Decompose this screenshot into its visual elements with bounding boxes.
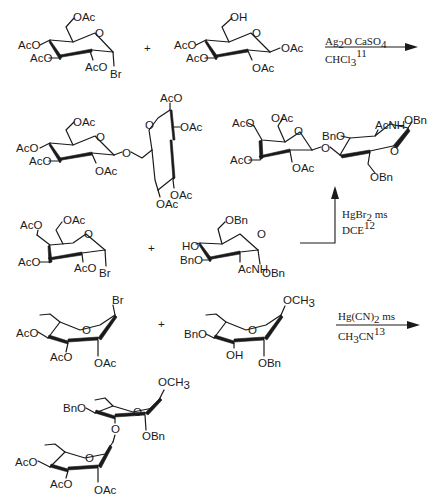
arrow-head-icon	[331, 186, 339, 199]
label-och3: OCH3	[158, 376, 190, 391]
label-ring-o: O	[248, 324, 257, 336]
label-aco-c2: AcO	[74, 262, 96, 274]
label-glycosidic-o: O	[122, 147, 131, 159]
conditions-reaction-2: HgBr2 ms DCE12	[300, 186, 388, 243]
label-ring-o: O	[95, 27, 104, 39]
label-aco-c3: AcO	[30, 52, 52, 64]
label-oac-c6: OAc	[271, 112, 294, 124]
label-linking-o: O	[111, 423, 120, 435]
label-obn-c1: OBn	[404, 114, 427, 126]
label-br: Br	[112, 294, 124, 306]
arrow-head-icon	[405, 43, 418, 51]
label-obn-c6: OBn	[370, 171, 393, 183]
product-rha-rha-disaccharide: O OCH3 BnO OBn O O AcO AcO OAc	[15, 376, 190, 496]
label-ring-o-lower: O	[85, 452, 94, 464]
label-oac-c2: OAc	[94, 357, 117, 369]
label-aco-c3: AcO	[50, 478, 72, 490]
label-aco-c4: AcO	[232, 117, 254, 129]
label-oac-c6: OAc	[73, 11, 96, 23]
glcnac-acceptor-4oh: O OBn HO BnO AcNH OBn	[180, 214, 285, 279]
rhamnosyl-bromide-donor: O Br AcO AcO OAc	[16, 294, 124, 369]
label-aco-c3: AcO	[50, 351, 72, 363]
label-oac-c6: OAc	[73, 116, 96, 128]
conditions-reaction-1: Ag2O CaSO4 CHCl311	[325, 35, 418, 68]
glucosyl-bromide-donor: OAc O AcO AcO AcO Br	[18, 11, 122, 80]
label-ring-o: O	[252, 27, 261, 39]
label-aco-c6-top: AcO	[160, 92, 182, 104]
label-oh-c3: OH	[226, 349, 243, 361]
rhamnoside-acceptor-3oh: O OCH3 BnO OH OBn	[184, 294, 315, 369]
label-ring-o: O	[96, 131, 105, 143]
label-bno-c3: BnO	[180, 254, 203, 266]
label-obn-c2: OBn	[142, 430, 165, 442]
reagents-top: Hg(CN)2 ms	[338, 310, 395, 325]
label-aco-c3: AcO	[18, 256, 40, 268]
label-oac-c2: OAc	[292, 162, 315, 174]
label-ring-o: O	[257, 228, 266, 240]
label-ring-o: O	[82, 324, 91, 336]
conditions-reaction-3: Hg(CN)2 ms CH3CN13	[336, 310, 420, 345]
label-bno-c3: BnO	[322, 130, 345, 142]
solvent-bottom: CH3CN13	[338, 325, 386, 345]
glucose-acceptor-6oh: OH O AcO AcO OAc OAc	[174, 11, 304, 74]
label-aco-c2: AcO	[85, 61, 107, 73]
plus-sign-2: +	[148, 242, 155, 254]
label-oac-c1: OAc	[281, 42, 304, 54]
label-glcnac-ring-o: O	[390, 145, 399, 157]
plus-sign-3: +	[158, 318, 165, 330]
label-ring-o: O	[84, 228, 93, 240]
label-oac-c2: OAc	[94, 484, 117, 496]
label-aco-c4: AcO	[15, 456, 37, 468]
arrow-head-icon	[407, 321, 420, 329]
solvent-bottom: CHCl311	[325, 47, 367, 68]
label-glycosidic-o: O	[321, 142, 330, 154]
label-aco-c4: AcO	[16, 327, 38, 339]
product-1-6-disaccharide: OAc O AcO AcO OAc O O AcO OAc OAc OAc	[16, 92, 203, 210]
label-oac-r2-a: OAc	[180, 121, 203, 133]
label-ho-c4: HO	[182, 240, 199, 252]
label-gal-ring-o: O	[294, 125, 303, 137]
label-oac-r2-c: OAc	[156, 198, 179, 210]
product-gal-glcnac-disaccharide: O OAc AcO AcO OAc O O BnO AcNH OBn OBn	[230, 112, 427, 183]
label-oac-c6: OAc	[63, 214, 86, 226]
label-aco-c4: AcO	[16, 142, 38, 154]
label-aco-c4: AcO	[18, 39, 40, 51]
label-och3: OCH3	[283, 294, 315, 309]
label-ring-o-2: O	[145, 119, 154, 131]
label-aco-c4: AcO	[20, 219, 42, 231]
label-bno-c4: BnO	[184, 328, 207, 340]
label-oac-c2: OAc	[252, 62, 275, 74]
label-br: Br	[99, 267, 111, 279]
reaction-arrow-2	[300, 195, 335, 243]
galactosyl-bromide-donor: O OAc AcO AcO AcO Br	[18, 214, 111, 279]
label-aco-c3: AcO	[186, 52, 208, 64]
solvent-bottom: DCE12	[342, 219, 375, 236]
label-bno-c4: BnO	[63, 402, 86, 414]
label-aco-c3: AcO	[230, 154, 252, 166]
label-obn-c6: OBn	[225, 214, 248, 226]
label-oh-c6: OH	[230, 11, 247, 23]
label-oac-c2: OAc	[95, 165, 118, 177]
label-acnh-c2: AcNH	[375, 119, 405, 131]
label-obn-c2: OBn	[258, 357, 281, 369]
label-br: Br	[110, 68, 122, 80]
plus-sign-1: +	[144, 42, 151, 54]
label-obn-c1: OBn	[262, 267, 285, 279]
reaction-scheme: OAc O AcO AcO AcO Br + OH O AcO AcO OAc …	[0, 0, 442, 500]
label-aco-c4: AcO	[174, 39, 196, 51]
label-aco-c3: AcO	[29, 155, 51, 167]
